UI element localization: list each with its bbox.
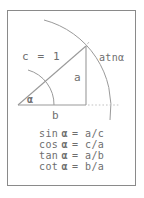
opposite-leg-label: a <box>74 71 81 84</box>
formula-equals-tan: = <box>72 150 78 161</box>
formula-row-cos: cos α = c/a <box>39 139 104 150</box>
hypotenuse-label: c = 1 <box>22 50 61 63</box>
formula-expression-sin: a/c <box>85 128 104 139</box>
formula-expression-tan: a/b <box>85 150 104 161</box>
formula-row-cot: cot α = b/a <box>39 161 104 172</box>
formula-function-tan: tan <box>39 150 58 161</box>
formula-expression-cot: b/a <box>85 161 104 172</box>
formula-expression-cos: c/a <box>85 139 104 150</box>
formula-function-cot: cot <box>39 161 58 172</box>
formula-row-tan: tan α = a/b <box>39 150 104 161</box>
formula-equals-cot: = <box>72 161 78 172</box>
formula-angle-tan: α <box>62 150 68 161</box>
figure-caption <box>0 188 144 198</box>
adjacent-leg-label: b <box>52 109 59 122</box>
formula-angle-sin: α <box>62 128 68 139</box>
arctangent-arc-label: atnα <box>99 52 124 63</box>
formula-angle-cos: α <box>62 139 68 150</box>
angle-alpha-label: α <box>27 94 33 105</box>
formula-row-sin: sin α = a/c <box>39 128 104 139</box>
formula-angle-cot: α <box>62 161 68 172</box>
trigonometry-figure: c = 1 a b α atnα sin α = a/c cos α = c/a… <box>0 0 144 198</box>
formula-list: sin α = a/c cos α = c/a tan α = a/b cot … <box>39 128 104 172</box>
formula-function-sin: sin <box>39 128 58 139</box>
trigonometry-diagram-svg: c = 1 a b α atnα sin α = a/c cos α = c/a… <box>0 0 144 198</box>
formula-equals-sin: = <box>72 128 78 139</box>
formula-equals-cos: = <box>72 139 78 150</box>
formula-function-cos: cos <box>39 139 58 150</box>
